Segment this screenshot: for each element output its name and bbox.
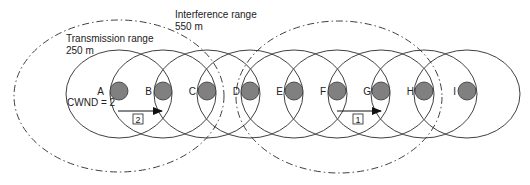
flow-label-2: 2 — [135, 115, 140, 125]
nodes — [110, 82, 476, 100]
network-diagram: A B C D E F G H I CWND = 2 2 1 Interfere… — [0, 0, 530, 185]
node-label-g: G — [363, 86, 371, 97]
node-e — [285, 82, 303, 100]
node-d — [241, 82, 259, 100]
flow-2: 2 — [118, 111, 162, 125]
node-label-i: I — [453, 86, 456, 97]
node-label-c: C — [189, 86, 196, 97]
node-c — [198, 82, 216, 100]
node-f — [328, 82, 346, 100]
node-i — [458, 82, 476, 100]
interference-range-title: Interference range — [175, 9, 257, 20]
transmission-range-value: 250 m — [66, 45, 94, 56]
transmission-range-title: Transmission range — [66, 33, 154, 44]
node-label-h: H — [407, 86, 414, 97]
node-labels: A B C D E F G H I — [97, 86, 456, 97]
node-b — [154, 82, 172, 100]
interference-range-value: 550 m — [175, 21, 203, 32]
flow-1: 1 — [337, 111, 381, 125]
node-g — [372, 82, 390, 100]
node-label-b: B — [145, 86, 152, 97]
flow-label-1: 1 — [355, 115, 360, 125]
node-label-e: E — [276, 86, 283, 97]
node-label-d: D — [233, 86, 240, 97]
node-label-a: A — [97, 86, 104, 97]
cwnd-label: CWND = 2 — [67, 97, 116, 108]
node-label-f: F — [320, 86, 326, 97]
node-h — [415, 82, 433, 100]
